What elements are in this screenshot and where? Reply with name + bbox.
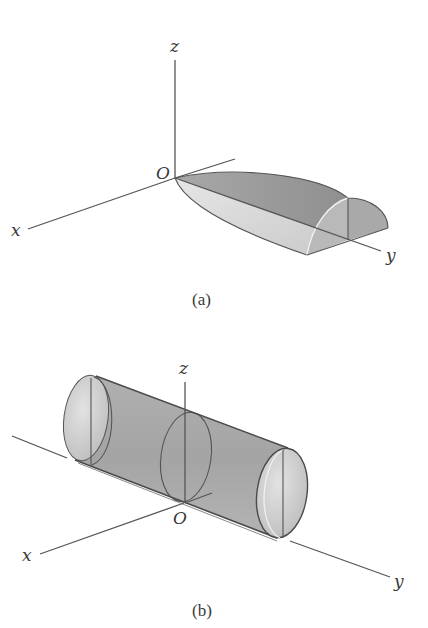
figure-canvas: z O x y (a) z O	[0, 0, 428, 628]
x-label-a: x	[11, 220, 21, 240]
y-axis-b	[290, 541, 390, 577]
z-label-b: z	[178, 358, 189, 378]
panel-a: z O x y (a)	[11, 36, 396, 309]
panel-b: z O x y (b)	[12, 358, 404, 620]
z-label-a: z	[169, 36, 180, 56]
y-label-a: y	[385, 245, 396, 265]
neg-y-axis-b	[12, 436, 67, 458]
caption-a: (a)	[192, 290, 211, 309]
origin-label-a: O	[156, 163, 170, 183]
origin-label-b: O	[173, 508, 187, 528]
x-label-b: x	[22, 545, 32, 565]
solid-end-cap-a	[348, 198, 388, 240]
x-axis-b	[40, 503, 184, 554]
y-label-b: y	[393, 571, 404, 591]
caption-b: (b)	[192, 601, 212, 620]
x-axis-a	[28, 178, 175, 229]
